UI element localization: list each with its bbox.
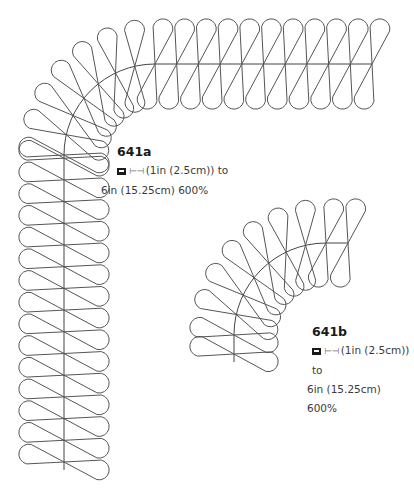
stitch-loop [262, 19, 282, 64]
stitch-loop [19, 444, 64, 464]
stitch-loop [64, 286, 109, 306]
stitch-loop [64, 460, 109, 480]
stitch-loop [159, 64, 179, 109]
stitch-loop [98, 84, 124, 126]
stitch-loop [330, 243, 350, 287]
width-range-text: (1in (2.5cm)) to [146, 164, 229, 176]
stitch-loop [305, 19, 325, 64]
stitch-loop [64, 438, 109, 458]
stitch-loop [64, 330, 109, 350]
stitch-loop [295, 200, 315, 245]
stitch-loop [64, 308, 109, 328]
stitch-loop [35, 83, 73, 115]
stitch-loop [64, 352, 109, 372]
stitch-loop [84, 98, 117, 136]
pattern-number: 641b [312, 323, 414, 341]
stitch-loop [19, 162, 64, 182]
stitch-loop [97, 28, 117, 73]
stitch-loop [346, 199, 366, 243]
pattern-number: 641a [117, 143, 228, 161]
stitch-loop [19, 227, 64, 247]
stitch-loop [190, 336, 234, 356]
stitch-loop [283, 19, 303, 64]
stitch-loop [19, 137, 64, 157]
width-range-text-2: 6in (15.25cm) 600% [307, 380, 414, 418]
stitch-loop [268, 208, 288, 252]
width-arrow-icon: ⊢⊣ [129, 166, 145, 176]
pattern-width-line: ⊢⊣(1in (2.5cm)) to [117, 161, 228, 181]
stitch-loop [19, 271, 64, 291]
stitch-loop [206, 263, 243, 295]
stitch-loop [243, 222, 268, 263]
pattern-label-641a: 641a ⊢⊣(1in (2.5cm)) to 6in (15.25cm) 60… [117, 143, 228, 200]
stitch-loop [64, 200, 109, 220]
stitch-loop [19, 336, 64, 356]
stitch-loop [153, 19, 173, 64]
stitch-loop [332, 64, 352, 109]
stitch-loop [125, 20, 145, 66]
stitch-loop [224, 64, 244, 109]
stitch-loop [267, 64, 287, 109]
stitch-loop [64, 221, 109, 241]
stitch-loop [73, 41, 99, 83]
stitch-loop [19, 205, 64, 225]
stitch-loop [181, 64, 201, 109]
stitch-loop [240, 19, 260, 64]
stitch-loop [175, 19, 195, 64]
stitch-loop [348, 19, 368, 64]
stitch-loop [234, 333, 278, 353]
stitch-loop [354, 64, 374, 109]
stitch-loop [202, 64, 222, 109]
stitch-loop [19, 314, 64, 334]
width-arrow-icon: ⊢⊣ [324, 346, 340, 356]
stitch-loop [19, 292, 64, 312]
stitch-loop [190, 317, 234, 337]
stitch-loop [327, 19, 347, 64]
stitch-loop [64, 243, 109, 263]
stitch-loop [218, 19, 238, 64]
stitch-loop [24, 109, 67, 134]
stitch-loop [311, 64, 331, 109]
pattern-width-line: ⊢⊣(1in (2.5cm)) to [312, 341, 414, 380]
stitch-loop [64, 373, 109, 393]
stitch-loop [370, 19, 390, 64]
width-range-text-2: 6in (15.25cm) 600% [101, 181, 228, 200]
stitch-loop [254, 278, 286, 315]
stitch-loop [196, 19, 216, 64]
stitch-loop [64, 417, 109, 437]
pattern-label-641b: 641b ⊢⊣(1in (2.5cm)) to 6in (15.25cm) 60… [307, 323, 414, 418]
sewing-machine-icon [117, 168, 126, 175]
stitch-loop [269, 263, 294, 304]
stitch-loop [289, 64, 309, 109]
stitch-loop [19, 379, 64, 399]
stitch-loop [19, 357, 64, 377]
stitch-loop [64, 265, 109, 285]
stitch-loop [64, 395, 109, 415]
stitch-loop [19, 422, 64, 442]
stitch-loop [195, 289, 237, 314]
stitch-loop [19, 184, 64, 204]
stitch-loop [234, 352, 278, 372]
sewing-machine-icon [312, 348, 321, 355]
stitch-loop [246, 64, 266, 109]
stitch-loop [19, 249, 64, 269]
stitch-loop [19, 401, 64, 421]
stitch-loop [324, 199, 344, 243]
